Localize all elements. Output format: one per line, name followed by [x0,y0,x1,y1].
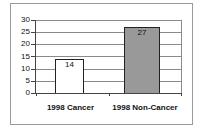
y-tick [31,20,35,21]
y-tick-label-20: 20 [10,40,30,48]
gridline-15 [36,56,182,57]
y-tick-label-25: 25 [10,28,30,36]
y-tick [31,93,35,94]
category-label-cancer: 1998 Cancer [42,103,99,112]
x-tick [36,93,37,96]
bar-1998-non-cancer [124,27,160,94]
y-tick [31,44,35,45]
y-axis [35,20,36,94]
y-tick [31,69,35,70]
x-tick [181,93,182,96]
y-tick-label-5: 5 [10,77,30,85]
y-tick-label-0: 0 [10,89,30,97]
category-label-non-cancer: 1998 Non-Cancer [106,103,184,112]
data-label-cancer: 14 [55,60,84,69]
y-tick [31,81,35,82]
data-label-non-cancer: 27 [124,28,160,37]
y-tick-label-10: 10 [10,65,30,73]
y-tick-label-30: 30 [10,16,30,24]
y-tick [31,32,35,33]
y-tick [31,56,35,57]
gridline-25 [36,32,182,33]
gridline-20 [36,44,182,45]
x-tick [109,93,110,96]
y-tick-label-15: 15 [10,53,30,61]
